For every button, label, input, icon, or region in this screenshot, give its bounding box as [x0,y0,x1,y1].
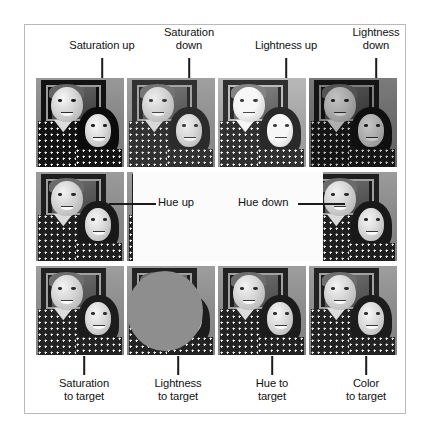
callout-hue-down: Hue down [238,196,288,209]
photo-cell-hue-row-left [36,172,124,261]
callout-color-to-target: Color to target [311,377,421,403]
photo-cell-saturation-down [127,78,215,167]
photo-cell-color-to-target [309,266,397,355]
photo-row [36,78,396,167]
photo-cell-lightness-up [218,78,306,167]
photo-cell-lightness-down [309,78,397,167]
portrait-image [309,266,397,355]
portrait-image [309,78,397,167]
photo-cell-hue-to-target [218,266,306,355]
callout-saturation-down: Saturation down [139,26,239,52]
portrait-image [218,266,306,355]
portrait-image [36,266,124,355]
photo-cell-saturation-up [36,78,124,167]
photo-cell-saturation-to-target [36,266,124,355]
leader-line-saturation-to-target [83,356,85,375]
callout-hue-up: Hue up [158,196,194,209]
lightness-to-target-ellipse-overlay [127,271,203,351]
hue-row-white-overlay [133,172,323,261]
callout-lightness-up: Lightness up [231,39,341,52]
portrait-image [36,172,124,261]
leader-line-color-to-target [365,356,367,375]
portrait-image [127,78,215,167]
portrait-image [36,78,124,167]
leader-line-hue-down [298,203,345,205]
figure-frame: Saturation up Saturation down Lightness … [24,24,406,414]
callout-lightness-down: Lightness down [330,26,422,52]
photo-row [36,266,396,355]
portrait-image [218,78,306,167]
leader-line-hue-to-target [271,356,273,375]
leader-line-hue-up [109,203,156,205]
leader-line-lightness-to-target [177,356,179,375]
